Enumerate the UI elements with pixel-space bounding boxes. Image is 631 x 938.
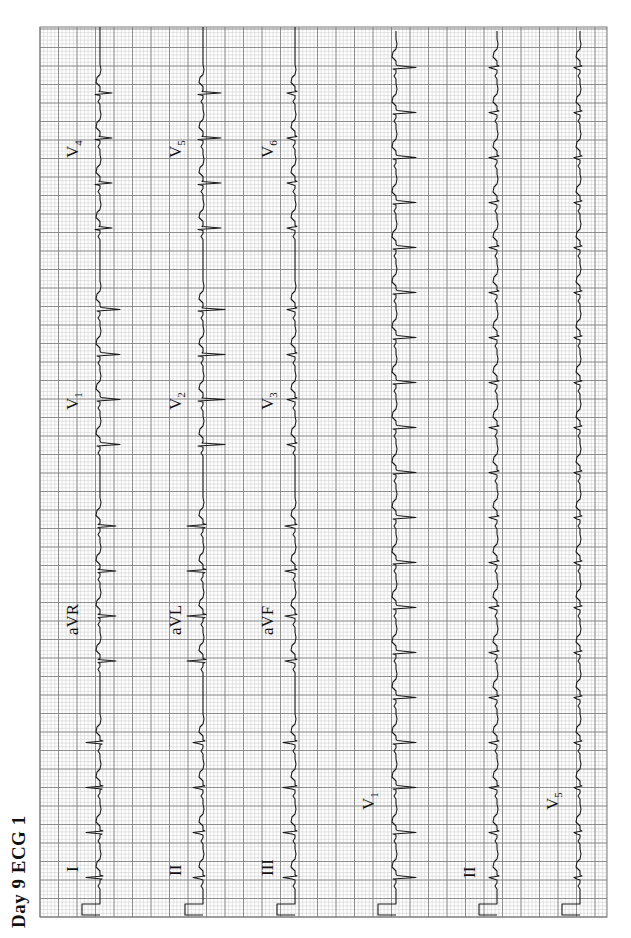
lead-label-v5-rhythm: V5 [543,792,564,810]
ecg-sheet: Day 9 ECG 1 IaVRV1V4IIaVLV2V5IIIaVFV3V6V… [0,0,631,938]
ecg-chart: IaVRV1V4IIaVLV2V5IIIaVFV3V6V1IIV5 [0,0,631,938]
lead-label-iii: III [258,859,277,876]
lead-label-avr: aVR [63,603,82,635]
lead-label-v3: V3 [258,392,279,410]
lead-labels: IaVRV1V4IIaVLV2V5IIIaVFV3V6V1IIV5 [63,140,564,878]
lead-label-v6: V6 [258,140,279,158]
ecg-trace-row-2 [185,27,225,915]
lead-label-i: I [63,866,82,872]
lead-label-ii-rhythm: II [460,866,479,878]
ecg-grid [40,27,607,917]
ecg-traces [82,27,582,915]
ecg-trace-row-3 [277,27,297,915]
lead-label-ii: II [166,864,185,876]
lead-label-avl: aVL [166,605,185,635]
lead-label-avf: aVF [258,606,277,635]
